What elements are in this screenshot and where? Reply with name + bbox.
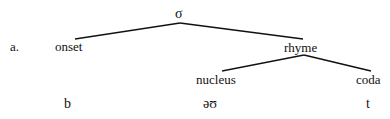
branch-rhyme-nucleus bbox=[222, 55, 304, 71]
node-rhyme: rhyme bbox=[284, 41, 317, 54]
segment-onset: b bbox=[64, 97, 71, 111]
node-sigma: σ bbox=[175, 7, 183, 21]
branch-rhyme-coda bbox=[304, 55, 371, 71]
segment-coda: t bbox=[366, 97, 370, 111]
tree-branches bbox=[0, 0, 390, 119]
example-label: a. bbox=[10, 40, 19, 53]
branch-sigma-rhyme bbox=[180, 23, 303, 39]
branch-sigma-onset bbox=[75, 23, 180, 39]
node-nucleus: nucleus bbox=[196, 73, 236, 86]
node-onset: onset bbox=[55, 40, 82, 53]
node-coda: coda bbox=[356, 73, 381, 86]
segment-nucleus: əʊ bbox=[203, 97, 217, 111]
